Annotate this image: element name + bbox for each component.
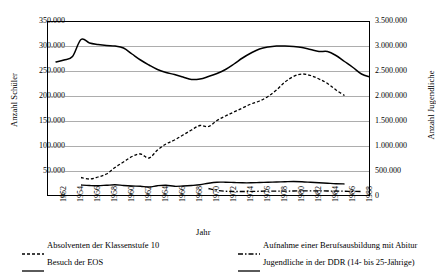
series-line-4	[56, 39, 371, 80]
chart-figure: Anzahl Schüler Anzahl Jugendliche Jahr 3…	[0, 0, 436, 277]
y-axis-title-left: Anzahl Schüler	[9, 60, 19, 140]
plot-svg	[47, 21, 370, 196]
legend-swatch-4	[238, 261, 260, 269]
y-tick-label-right: 2.000.000	[375, 91, 407, 100]
plot-area	[47, 21, 370, 196]
legend-swatch-1	[22, 244, 44, 252]
legend-swatch-3	[22, 261, 44, 269]
chart-legend: Absolventen der Klassenstufe 10Aufnahme …	[0, 240, 436, 277]
legend-label-4: Jugendliche in der DDR (14- bis 25-Jähri…	[263, 257, 415, 267]
legend-swatch-2	[238, 244, 260, 252]
legend-label-2: Aufnahme einer Berufsausbildung mit Abit…	[263, 240, 417, 250]
x-axis-title: Jahr	[196, 227, 211, 237]
y-tick-label-right: 1.000.000	[375, 141, 407, 150]
y-axis-title-right: Anzahl Jugendliche	[426, 65, 436, 145]
series-line-3	[81, 182, 345, 188]
y-tick-label-right: 3.500.000	[375, 16, 407, 25]
legend-label-1: Absolventen der Klassenstufe 10	[47, 240, 159, 250]
y-tick-label-right: 3.000.000	[375, 41, 407, 50]
series-line-2	[209, 189, 362, 192]
plot-frame	[48, 22, 370, 196]
y-tick-label-right: 1.500.000	[375, 116, 407, 125]
legend-label-3: Besuch der EOS	[47, 257, 103, 267]
series-line-1	[81, 74, 345, 179]
y-tick-label-right: 2.500.000	[375, 66, 407, 75]
y-tick-label-right: 0	[375, 191, 379, 200]
y-tick-label-right: 500.000	[375, 166, 401, 175]
